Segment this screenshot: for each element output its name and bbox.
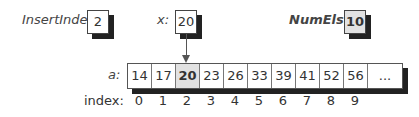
array-cell: 17: [152, 64, 176, 88]
array-cell-ellipsis: ...: [368, 64, 402, 88]
array-label: a:: [108, 67, 120, 82]
index-value: 6: [271, 93, 295, 109]
index-value: 7: [295, 93, 319, 109]
index-value: 1: [151, 93, 175, 109]
index-value: 8: [319, 93, 343, 109]
array-cell: 23: [200, 64, 224, 88]
insert-arrow-shaft: [186, 34, 187, 56]
array-cell: 56: [344, 64, 368, 88]
index-value: 5: [247, 93, 271, 109]
index-row: 0 1 2 3 4 5 6 7 8 9: [127, 93, 367, 109]
index-label: index:: [84, 93, 124, 109]
array-cell: 39: [272, 64, 296, 88]
array-a: 14 17 20 23 26 33 39 41 52 56 ...: [127, 63, 403, 89]
array-cell-highlighted: 20: [176, 64, 200, 88]
array-cell: 14: [128, 64, 152, 88]
array-cell: 33: [248, 64, 272, 88]
num-els-label: NumEls:: [289, 12, 349, 27]
index-value: 4: [223, 93, 247, 109]
index-value: 2: [175, 93, 199, 109]
array-cell: 41: [296, 64, 320, 88]
down-arrow-icon: [182, 55, 190, 63]
x-box: 20: [175, 10, 197, 34]
num-els-box: 10: [344, 10, 366, 34]
array-cell: 52: [320, 64, 344, 88]
index-value: 0: [127, 93, 151, 109]
array-cell: 26: [224, 64, 248, 88]
index-value: 3: [199, 93, 223, 109]
x-label: x:: [157, 12, 169, 27]
index-value: 9: [343, 93, 367, 109]
insert-index-box: 2: [87, 10, 109, 34]
